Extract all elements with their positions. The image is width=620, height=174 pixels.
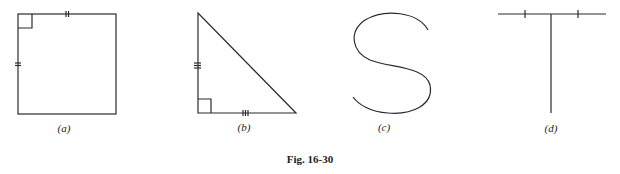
panel-d-label: (d) bbox=[545, 122, 558, 134]
panel-a-square bbox=[15, 11, 116, 114]
panel-d-t-shape bbox=[498, 10, 606, 113]
panel-b-label: (b) bbox=[238, 121, 251, 133]
right-angle-marker-b bbox=[198, 99, 211, 113]
panel-c-s-curve bbox=[353, 13, 430, 113]
panel-a-label: (a) bbox=[58, 122, 71, 134]
panel-c-label: (c) bbox=[378, 121, 390, 133]
figure-canvas bbox=[0, 0, 620, 174]
panel-b-triangle bbox=[194, 13, 296, 116]
figure-caption: Fig. 16-30 bbox=[287, 153, 333, 165]
right-angle-marker-a bbox=[18, 14, 32, 28]
